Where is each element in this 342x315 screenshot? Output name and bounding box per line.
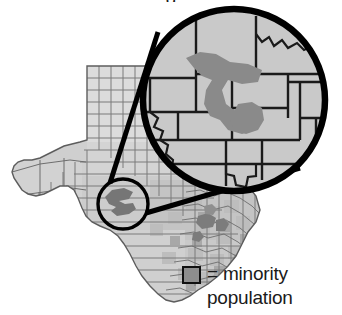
legend-text-block: = minority population: [207, 262, 293, 310]
legend-line-2: population: [207, 286, 293, 310]
map-legend: = minority population: [182, 262, 293, 310]
magnifier-inset: [140, 6, 332, 196]
figure-container: g: [0, 0, 342, 315]
minority-population-swatch: [182, 266, 201, 284]
legend-line-1: = minority: [207, 262, 293, 286]
